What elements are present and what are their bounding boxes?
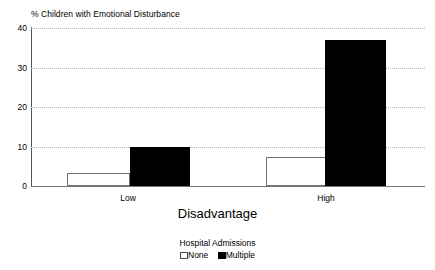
y-tick-label-20: 20 bbox=[3, 103, 27, 112]
legend-title: Hospital Admissions bbox=[0, 238, 435, 249]
x-axis-title: Disadvantage bbox=[0, 206, 435, 222]
legend-entries: None Multiple bbox=[0, 250, 435, 261]
legend-item-multiple: Multiple bbox=[218, 250, 255, 261]
legend-label-none: None bbox=[188, 250, 208, 261]
legend-swatch-none-icon bbox=[180, 252, 188, 259]
legend-item-none: None bbox=[180, 250, 208, 261]
chart-title: % Children with Emotional Disturbance bbox=[31, 9, 180, 19]
legend-swatch-multiple-icon bbox=[218, 252, 226, 259]
plot-area bbox=[31, 28, 425, 186]
bar-low-multiple bbox=[130, 147, 190, 187]
bar-high-multiple bbox=[325, 40, 386, 186]
bar-high-none bbox=[266, 157, 326, 186]
y-tick-label-40: 40 bbox=[3, 24, 27, 33]
legend: Hospital Admissions None Multiple bbox=[0, 238, 435, 261]
y-tick-label-0: 0 bbox=[3, 182, 27, 191]
x-tick-label-high: High bbox=[317, 193, 334, 203]
y-tick-label-10: 10 bbox=[3, 142, 27, 151]
y-tick-label-30: 30 bbox=[3, 63, 27, 72]
legend-label-multiple: Multiple bbox=[226, 250, 255, 261]
bar-chart: % Children with Emotional Disturbance 0 … bbox=[0, 0, 435, 270]
bar-low-none bbox=[67, 173, 130, 186]
x-tick-label-low: Low bbox=[120, 193, 136, 203]
x-axis-line bbox=[31, 186, 425, 187]
gridline-40 bbox=[31, 28, 425, 29]
y-axis-tick-labels: 0 10 20 30 40 bbox=[0, 28, 27, 186]
